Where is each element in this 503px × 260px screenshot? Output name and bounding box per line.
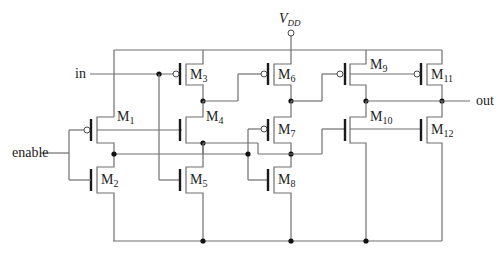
m3-label: M3 xyxy=(190,68,207,84)
out-port-label: out xyxy=(476,94,494,108)
m11-label: M11 xyxy=(431,68,453,84)
m7-label: M7 xyxy=(278,123,295,139)
m5-label: M5 xyxy=(190,173,207,189)
m9-label: M9 xyxy=(370,58,387,74)
vdd-terminal-icon xyxy=(288,30,294,36)
enable-port-label: enable xyxy=(12,146,49,160)
in-port-label: in xyxy=(75,67,86,81)
m10-label: M10 xyxy=(370,110,392,126)
m4-label: M4 xyxy=(206,110,223,126)
schematic-wires xyxy=(0,0,503,260)
m12-label: M12 xyxy=(431,123,453,139)
m2-label: M2 xyxy=(101,173,118,189)
circuit-diagram: VDD in enable out M1 M2 M3 M4 M5 M6 M7 M… xyxy=(0,0,503,260)
m8-label: M8 xyxy=(278,173,295,189)
m6-label: M6 xyxy=(278,68,295,84)
vdd-label: VDD xyxy=(279,12,301,28)
m1-label: M1 xyxy=(117,110,134,126)
